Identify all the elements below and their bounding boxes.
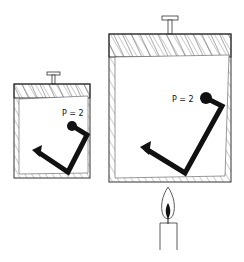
pressure-label: P = 2 — [62, 109, 84, 118]
large-container: P = 2 — [109, 16, 231, 182]
pressure-label: P = 2 — [172, 95, 194, 104]
knob-icon — [162, 16, 178, 34]
diagram: P = 2 P = 2 — [0, 0, 244, 262]
candle-icon — [160, 187, 177, 250]
knob-icon — [47, 72, 60, 84]
small-container: P = 2 — [14, 72, 90, 178]
